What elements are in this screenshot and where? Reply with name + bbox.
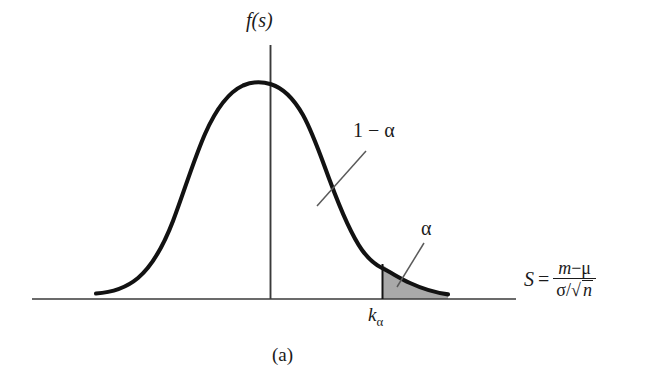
numerator-sample-mean: m xyxy=(558,258,571,278)
distribution-plot-canvas xyxy=(0,0,652,385)
x-axis-label: S = m−μ σ/√n xyxy=(524,259,596,299)
numerator-population-mean: μ xyxy=(581,258,591,278)
tail-region-leader-line xyxy=(397,243,424,287)
y-axis-label-text: f(s) xyxy=(246,9,273,31)
equals-sign: = xyxy=(538,269,549,289)
normal-density-curve xyxy=(96,82,448,294)
figure-caption: (a) xyxy=(272,345,293,364)
confidence-region-label-text: 1 − α xyxy=(353,119,395,141)
denominator-sigma: σ/ xyxy=(556,280,571,300)
critical-value-label: kα xyxy=(368,305,383,329)
figure-caption-text: (a) xyxy=(272,344,293,365)
square-root-icon: √ xyxy=(571,280,581,300)
confidence-region-leader-line xyxy=(317,151,366,206)
denominator-sample-size: n xyxy=(582,280,593,299)
x-axis-variable: S xyxy=(524,269,534,289)
tail-region-label: α xyxy=(421,218,431,238)
fraction-numerator: m−μ xyxy=(555,259,594,278)
confidence-region-label: 1 − α xyxy=(353,120,395,140)
normal-distribution-figure: f(s) 1 − α α kα S = m−μ σ/√n (a) xyxy=(0,0,652,385)
standardization-fraction: m−μ σ/√n xyxy=(553,259,596,299)
critical-value-subscript: α xyxy=(376,314,383,329)
fraction-denominator: σ/√n xyxy=(553,279,596,299)
numerator-minus: − xyxy=(571,258,581,278)
y-axis-label: f(s) xyxy=(246,10,273,30)
tail-region-label-text: α xyxy=(421,217,431,239)
